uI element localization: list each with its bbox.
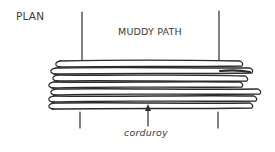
corduroy-plan-diagram: PLAN MUDDY PATH corduroy bbox=[0, 0, 275, 152]
log bbox=[51, 89, 261, 95]
log bbox=[56, 60, 243, 67]
log bbox=[49, 96, 257, 102]
callout-label: corduroy bbox=[124, 127, 168, 138]
callout-arrowhead bbox=[145, 104, 151, 111]
log bbox=[51, 68, 253, 74]
view-label: PLAN bbox=[16, 10, 44, 22]
path-label: MUDDY PATH bbox=[118, 26, 182, 37]
log bbox=[49, 82, 243, 88]
log bbox=[49, 103, 253, 109]
log bbox=[53, 75, 248, 81]
